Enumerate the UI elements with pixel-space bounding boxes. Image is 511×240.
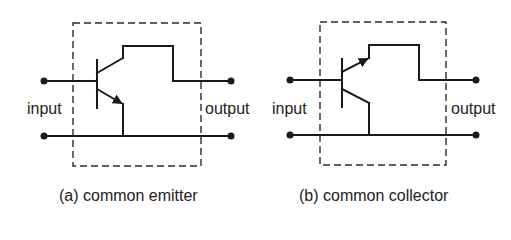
output-terminal-top	[228, 78, 235, 85]
input-terminal-top	[41, 78, 48, 85]
emitter-arrow-icon	[97, 89, 121, 103]
output-wire	[369, 45, 476, 80]
input-label: input	[272, 101, 307, 117]
input-terminal-bottom	[41, 133, 48, 140]
output-label: output	[451, 101, 495, 117]
output-terminal-bottom	[228, 133, 235, 140]
output-terminal-top	[473, 77, 480, 84]
collector-lead	[342, 89, 369, 103]
panel-common-collector	[287, 22, 480, 165]
input-terminal-top	[287, 77, 294, 84]
dashed-boundary-box	[73, 23, 201, 166]
caption-common-emitter: (a) common emitter	[59, 188, 198, 204]
panel-common-emitter	[41, 23, 235, 166]
caption-common-collector: (b) common collector	[299, 188, 448, 204]
output-label: output	[205, 101, 249, 117]
dashed-boundary-box	[320, 22, 446, 165]
collector-lead	[97, 58, 123, 73]
emitter-arrow-icon	[342, 59, 367, 72]
output-wire	[123, 46, 231, 81]
input-terminal-bottom	[287, 132, 294, 139]
input-label: input	[27, 101, 62, 117]
output-terminal-bottom	[473, 132, 480, 139]
